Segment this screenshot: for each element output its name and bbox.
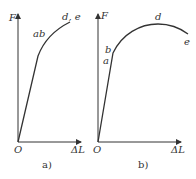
x-label-b: ΔL: [170, 144, 185, 155]
curve-b: [98, 24, 188, 142]
point-label-de: d, e: [62, 11, 81, 22]
point-label-e: e: [184, 36, 190, 47]
point-label-a: a: [103, 55, 109, 66]
origin-label-a: O: [14, 144, 22, 155]
caption-a: a): [42, 159, 52, 170]
panel-a: F ab d, e O ΔL a): [8, 11, 85, 170]
y-label-b: F: [100, 10, 109, 21]
origin-label-b: O: [93, 144, 101, 155]
panel-b: F a b d e O ΔL b): [93, 10, 190, 170]
x-label-a: ΔL: [70, 144, 85, 155]
curve-a: [18, 22, 70, 142]
force-elongation-diagram: F ab d, e O ΔL a) F a b d e O ΔL b): [0, 0, 196, 179]
caption-b: b): [138, 159, 148, 170]
point-label-d: d: [155, 11, 161, 22]
point-label-b: b: [105, 44, 111, 55]
point-label-ab: ab: [33, 28, 45, 39]
y-label-a: F: [8, 12, 17, 23]
